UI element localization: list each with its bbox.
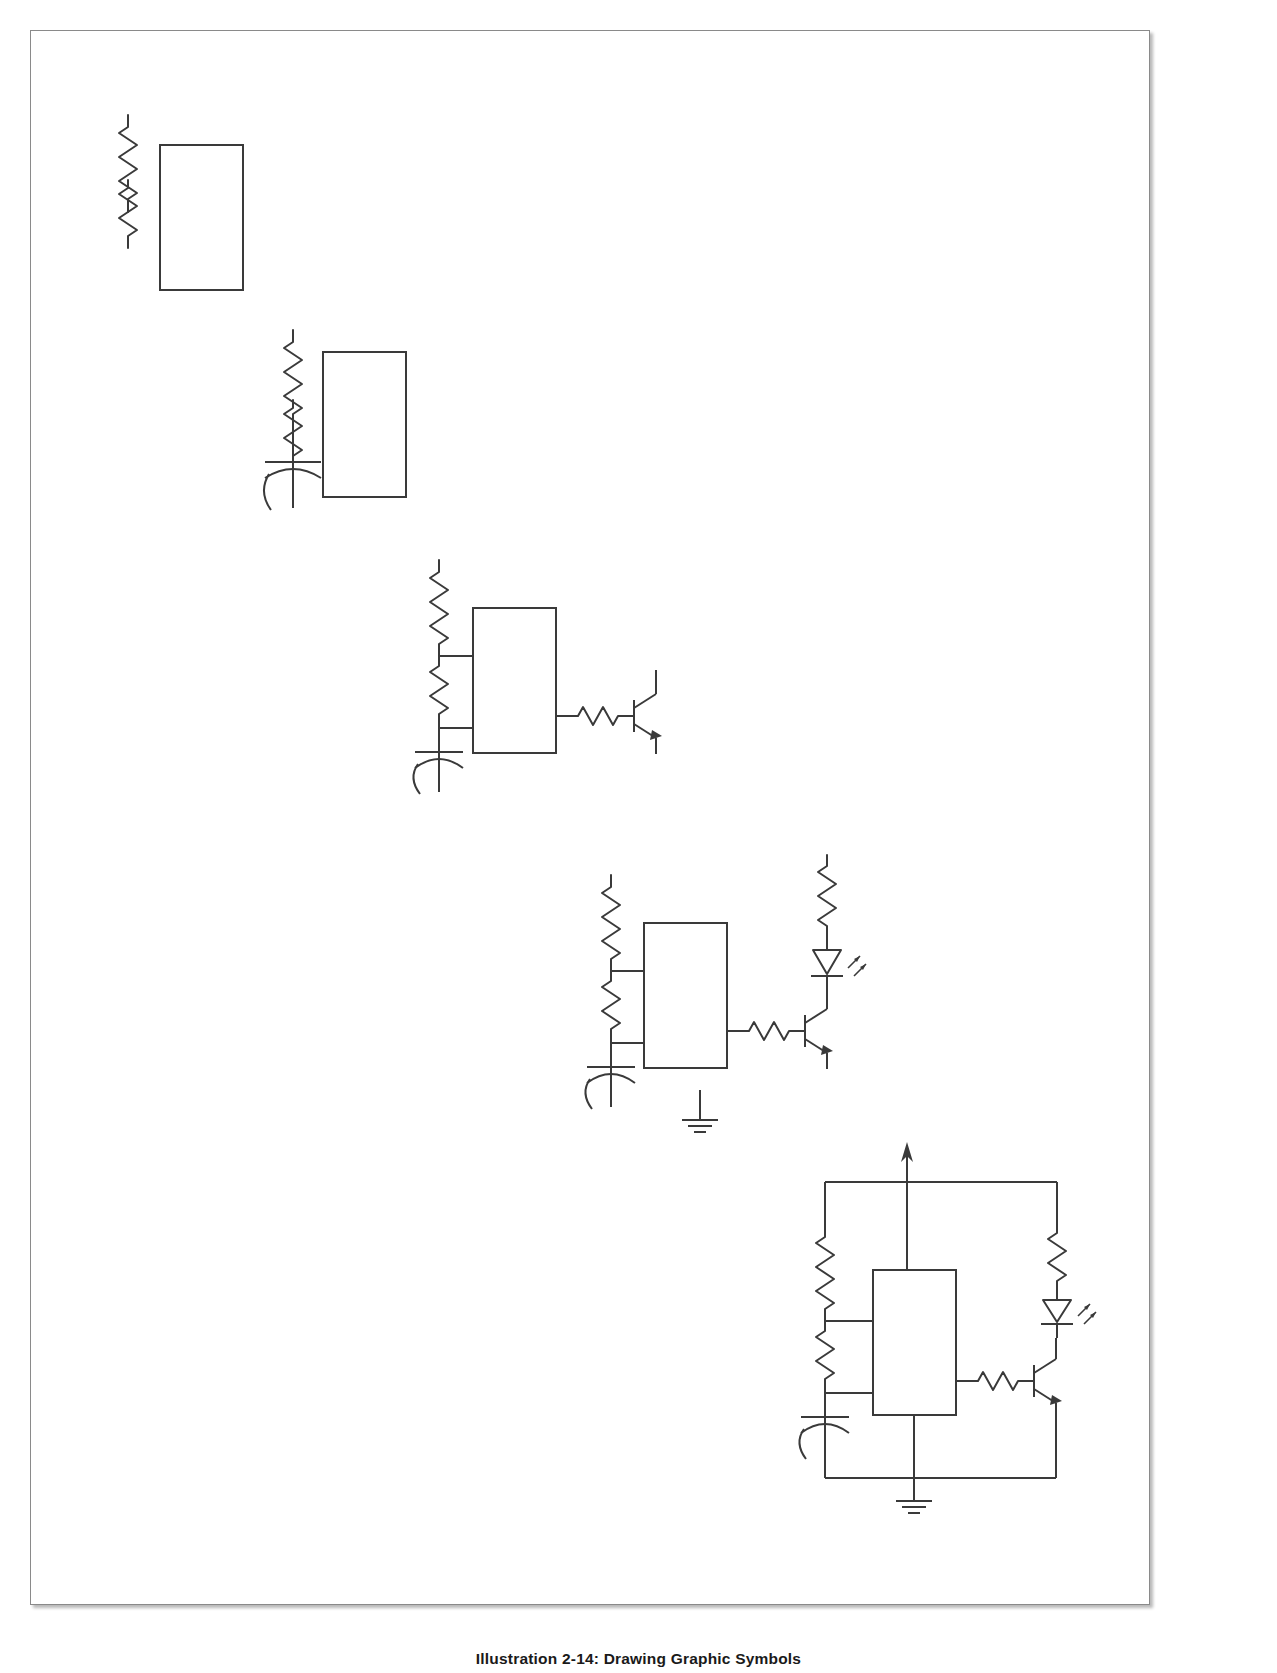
diagram-page: Illustration 2-14: Drawing Graphic Symbo… [0,0,1277,1673]
figure-caption: Illustration 2-14: Drawing Graphic Symbo… [0,1650,1277,1668]
page-frame-border [30,30,1150,1605]
